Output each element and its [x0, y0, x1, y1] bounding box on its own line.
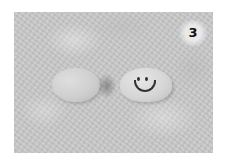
stone-shadow: [98, 74, 116, 98]
figure-number-badge: 3: [185, 24, 201, 42]
photo: 3: [14, 12, 213, 153]
smiley-mouth-icon: [134, 80, 156, 92]
plain-stone: [52, 68, 100, 102]
smiley-stone: [120, 68, 172, 102]
